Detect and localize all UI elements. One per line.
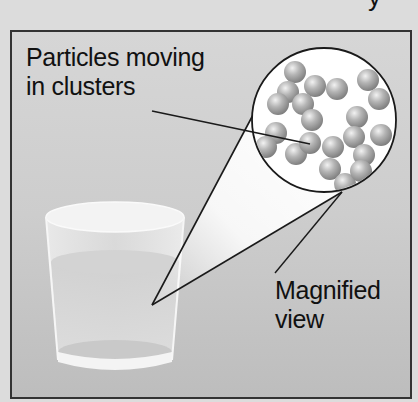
label-line: view <box>275 305 381 334</box>
label-line: Magnified <box>275 276 381 305</box>
label-line: in clusters <box>26 72 205 101</box>
label-particles-moving-in-clusters: Particles moving in clusters <box>26 43 205 101</box>
label-line: Particles moving <box>26 43 205 72</box>
label-magnified-view: Magnified view <box>275 276 381 334</box>
